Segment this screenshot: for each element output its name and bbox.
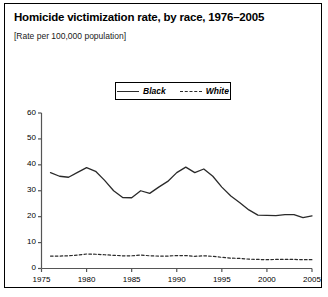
y-tick-label: 30 bbox=[14, 185, 36, 194]
y-tick-label: 10 bbox=[14, 237, 36, 246]
series-line-black bbox=[51, 167, 312, 218]
x-tick-label: 1995 bbox=[202, 275, 242, 284]
x-tick-label: 1985 bbox=[112, 275, 152, 284]
x-tick-label: 1980 bbox=[67, 275, 107, 284]
axes bbox=[42, 113, 313, 269]
series-line-white bbox=[51, 254, 312, 260]
x-tick-label: 1990 bbox=[157, 275, 197, 284]
plot-area bbox=[0, 0, 328, 297]
y-tick-label: 60 bbox=[14, 108, 36, 117]
data-series bbox=[51, 167, 312, 260]
y-tick-label: 40 bbox=[14, 159, 36, 168]
x-tick-label: 2005 bbox=[292, 275, 328, 284]
x-tick-label: 2000 bbox=[247, 275, 287, 284]
y-tick-label: 50 bbox=[14, 133, 36, 142]
y-tick-label: 20 bbox=[14, 211, 36, 220]
x-tick-label: 1975 bbox=[22, 275, 62, 284]
y-tick-label: 0 bbox=[14, 263, 36, 272]
chart-figure: Homicide victimization rate, by race, 19… bbox=[0, 0, 328, 297]
